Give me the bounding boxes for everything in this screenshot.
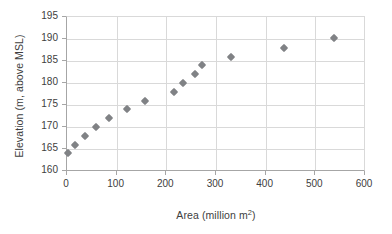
gridline-vertical (266, 17, 267, 170)
y-axis-tick-label: 180 (22, 76, 58, 88)
x-axis-tick-label: 400 (245, 178, 285, 189)
data-point-marker (92, 123, 100, 131)
x-axis-tick (66, 171, 67, 175)
x-axis-tick (165, 171, 166, 175)
y-axis-tick-label: 165 (22, 142, 58, 154)
y-axis-tick (62, 126, 66, 127)
data-point-marker (81, 132, 89, 140)
x-axis-tick-label: 0 (46, 178, 86, 189)
data-point-marker (279, 44, 287, 52)
data-point-marker (227, 52, 235, 60)
x-axis-tick-label: 500 (294, 178, 334, 189)
data-point-marker (170, 88, 178, 96)
x-axis-tick-label: 300 (195, 178, 235, 189)
x-axis-tick (116, 171, 117, 175)
y-axis-tick (62, 16, 66, 17)
y-axis-tick (62, 60, 66, 61)
data-point-marker (141, 96, 149, 104)
y-axis-tick-label: 185 (22, 54, 58, 66)
y-axis-tick-label: 190 (22, 32, 58, 44)
x-axis-title-tail: ) (252, 209, 256, 221)
y-axis-tick-label: 195 (22, 10, 58, 22)
y-axis-tick-label: 160 (22, 164, 58, 176)
gridline-vertical (117, 17, 118, 170)
y-axis-tick (62, 82, 66, 83)
y-axis-tick (62, 38, 66, 39)
gridline-vertical (315, 17, 316, 170)
x-axis-title-base: Area (million m (176, 209, 248, 221)
x-axis-tick (215, 171, 216, 175)
gridline-vertical (166, 17, 167, 170)
data-point-marker (64, 149, 72, 157)
data-point-marker (197, 61, 205, 69)
data-point-marker (191, 70, 199, 78)
y-axis-tick (62, 104, 66, 105)
y-axis-tick (62, 148, 66, 149)
data-point-marker (71, 140, 79, 148)
x-axis-tick (265, 171, 266, 175)
plot-area (66, 16, 365, 171)
x-axis-tick-label: 100 (96, 178, 136, 189)
x-axis-tick-label: 600 (344, 178, 384, 189)
x-axis-title: Area (million m2) (66, 209, 366, 221)
data-point-marker (105, 114, 113, 122)
gridline-vertical (216, 17, 217, 170)
x-axis-tick-label: 200 (145, 178, 185, 189)
y-axis-tick-label: 175 (22, 98, 58, 110)
data-point-marker (122, 105, 130, 113)
x-axis-tick (314, 171, 315, 175)
y-axis-tick-label: 170 (22, 120, 58, 132)
scatter-chart: Elevation (m, above MSL) Area (million m… (0, 0, 392, 234)
data-point-marker (330, 34, 338, 42)
x-axis-tick (364, 171, 365, 175)
data-point-marker (178, 79, 186, 87)
